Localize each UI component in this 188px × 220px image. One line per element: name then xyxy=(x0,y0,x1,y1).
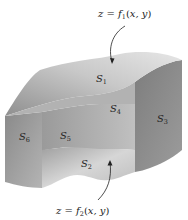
top-equation: z = f1(x, y) xyxy=(97,8,151,21)
bottom-equation: z = f2(x, y) xyxy=(55,205,109,218)
face-s6 xyxy=(5,112,42,188)
face-s5 xyxy=(42,104,135,150)
region-diagram: z = f1(x, y) z = f2(x, y) S1 S4 S3 S6 S5… xyxy=(0,0,188,220)
